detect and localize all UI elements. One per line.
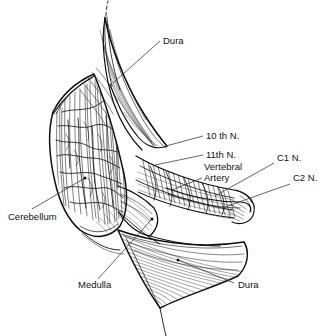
- label-nerve-10: 10 th N.: [206, 130, 239, 141]
- label-vertebral-artery-line1: Vertebral: [204, 161, 242, 172]
- dot-dura-bottom: [177, 259, 180, 262]
- label-medulla: Medulla: [78, 279, 112, 290]
- label-vertebral-artery-line2: Artery: [204, 172, 230, 183]
- label-c2-nerve: C2 N.: [293, 172, 317, 183]
- anatomical-illustration: Dura 10 th N. 11th N. Vertebral Artery C…: [0, 0, 333, 336]
- dot-medulla: [151, 218, 154, 221]
- label-nerve-11: 11th N.: [206, 149, 236, 160]
- label-dura-bottom: Dura: [238, 279, 259, 290]
- dot-cerebellum: [84, 177, 87, 180]
- label-c1-nerve: C1 N.: [277, 152, 301, 163]
- label-dura-top: Dura: [163, 35, 184, 46]
- label-cerebellum: Cerebellum: [8, 211, 57, 222]
